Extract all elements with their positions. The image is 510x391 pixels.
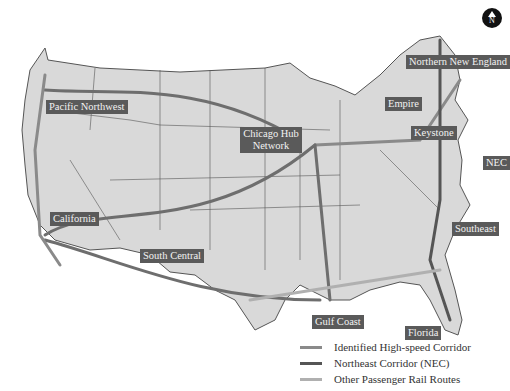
legend-item-nec: Northeast Corridor (NEC) xyxy=(300,355,471,371)
north-label: N xyxy=(482,16,502,25)
legend-swatch-icon xyxy=(300,362,322,365)
legend-item-other-routes: Other Passenger Rail Routes xyxy=(300,371,471,387)
region-label-northern-new-england: Northern New England xyxy=(406,55,510,69)
legend-item-high-speed: Identified High-speed Corridor xyxy=(300,339,471,355)
north-arrow-icon: N xyxy=(482,8,502,28)
legend-swatch-icon xyxy=(300,378,322,381)
region-label-empire: Empire xyxy=(385,97,422,111)
region-label-chicago-hub: Chicago Hub Network xyxy=(240,127,302,153)
region-label-california: California xyxy=(50,212,99,226)
legend-swatch-icon xyxy=(300,346,322,349)
region-label-florida: Florida xyxy=(405,326,441,340)
legend-label: Identified High-speed Corridor xyxy=(334,341,471,353)
map-legend: Identified High-speed Corridor Northeast… xyxy=(300,339,471,387)
region-label-south-central: South Central xyxy=(140,249,204,263)
region-label-keystone: Keystone xyxy=(411,126,457,140)
legend-label: Other Passenger Rail Routes xyxy=(334,373,460,385)
us-landmass xyxy=(22,36,470,335)
region-label-nec: NEC xyxy=(483,156,510,170)
region-label-southeast: Southeast xyxy=(452,222,499,236)
region-label-pacific-northwest: Pacific Northwest xyxy=(46,100,128,114)
legend-label: Northeast Corridor (NEC) xyxy=(334,357,449,369)
region-label-gulf-coast: Gulf Coast xyxy=(312,315,364,329)
